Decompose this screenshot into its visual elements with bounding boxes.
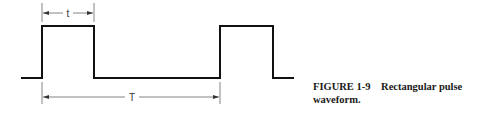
waveform-trace [21, 26, 294, 78]
figure-caption: FIGURE 1-9 Rectangular pulse waveform. [313, 80, 483, 106]
arrow-left-icon [43, 95, 49, 99]
arrow-left-icon [43, 11, 49, 15]
period-dimension: T [42, 82, 220, 104]
figure-number: FIGURE 1-9 [313, 81, 370, 92]
pulse-width-dimension: t [42, 3, 94, 22]
arrow-right-icon [213, 95, 219, 99]
period-label: T [129, 92, 135, 103]
pulse-width-label: t [67, 8, 70, 19]
arrow-right-icon [87, 11, 93, 15]
